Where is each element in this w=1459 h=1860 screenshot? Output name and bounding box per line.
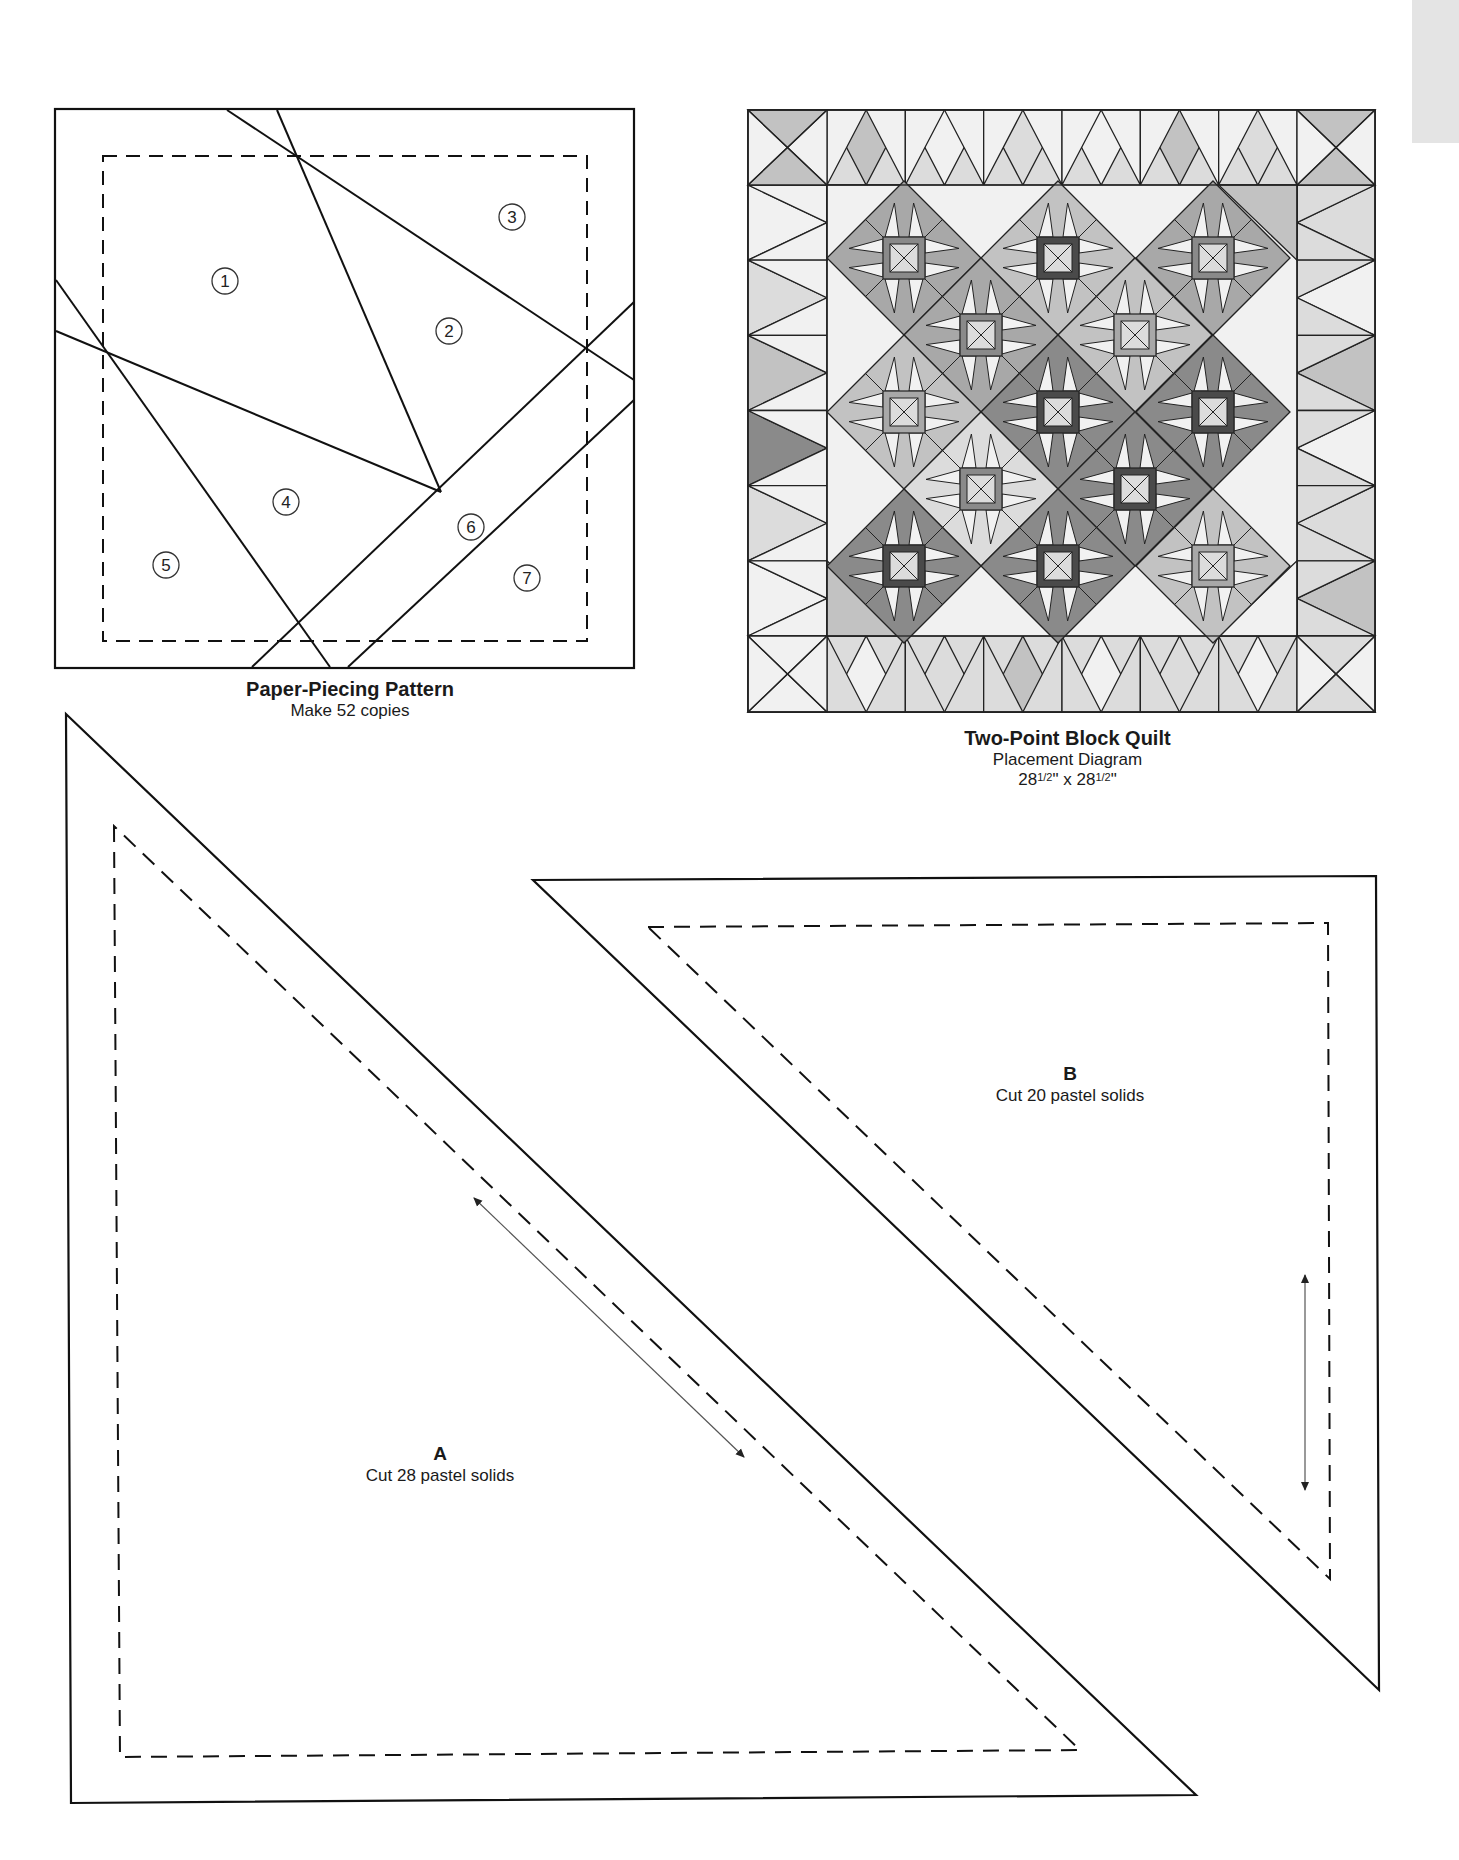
template-a-instruction: Cut 28 pastel solids	[320, 1466, 560, 1486]
template-b-instruction: Cut 20 pastel solids	[950, 1086, 1190, 1106]
template-a-label: A Cut 28 pastel solids	[320, 1443, 560, 1486]
template-triangles	[0, 0, 1459, 1860]
template-b-label: B Cut 20 pastel solids	[950, 1063, 1190, 1106]
grain-arrow-a-icon	[474, 1198, 744, 1457]
template-a-letter: A	[320, 1443, 560, 1466]
template-b-letter: B	[950, 1063, 1190, 1086]
